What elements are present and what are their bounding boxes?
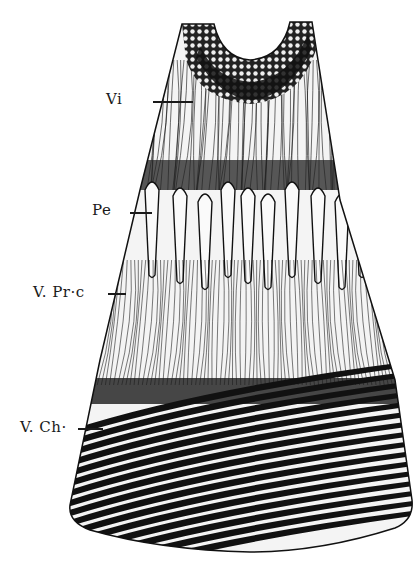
vi-fibre bbox=[344, 60, 347, 190]
leader-pe bbox=[130, 212, 152, 214]
vi-fibre bbox=[350, 60, 355, 190]
pe-dark-band bbox=[100, 160, 400, 190]
label-vi: Vi bbox=[106, 90, 122, 108]
leader-vch bbox=[78, 428, 103, 430]
vprc-fibre bbox=[394, 260, 409, 385]
label-pe: Pe bbox=[92, 201, 111, 219]
vi-fibre bbox=[345, 60, 352, 190]
leader-vprc bbox=[108, 293, 126, 295]
leader-vi bbox=[153, 101, 193, 103]
vprc-fibre bbox=[397, 260, 413, 385]
vprc-fibre bbox=[390, 260, 405, 385]
label-vch: V. Ch· bbox=[20, 418, 67, 436]
vi-fibre bbox=[340, 60, 343, 190]
label-vprc: V. Pr·c bbox=[33, 283, 85, 301]
